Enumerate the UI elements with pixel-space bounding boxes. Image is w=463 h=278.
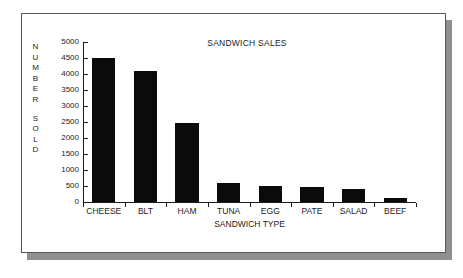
bar [217,183,240,202]
y-axis-tick-label: 4500 [61,54,79,62]
x-axis-category-label: PATE [301,207,322,216]
bar [134,71,157,202]
y-axis-tick [84,186,88,187]
bar [342,189,365,202]
x-axis-category-label: BEEF [384,207,406,216]
x-axis-label: SANDWICH TYPE [83,219,416,229]
y-axis-tick [84,170,88,171]
y-axis-tick-label: 4000 [61,70,79,78]
y-axis-tick-labels: 0500100015002000250030003500400045005000 [46,42,79,202]
y-axis-tick-label: 2000 [61,134,79,142]
x-axis-category-label: TUNA [217,207,240,216]
x-axis-category-label: EGG [261,207,280,216]
y-axis-label-char: U [33,53,39,62]
y-axis-tick-label: 5000 [61,38,79,46]
y-axis-label-char: R [33,95,39,104]
y-axis-label-char: O [32,124,38,133]
plot-area [83,42,416,202]
x-axis-category-label: SALAD [340,207,368,216]
y-axis-tick-label: 500 [66,182,79,190]
x-axis-category-label: BLT [138,207,153,216]
bar [384,198,407,202]
y-axis-label-char: B [33,74,38,83]
y-axis-tick [84,138,88,139]
y-axis-tick-label: 1500 [61,150,79,158]
x-axis-category-label: CHEESE [86,207,121,216]
y-axis-label-char: M [32,63,39,72]
x-axis-category-labels: CHEESEBLTHAMTUNAEGGPATESALADBEEF [83,207,416,219]
bar [175,123,198,202]
y-axis-label: N U M B E R S O L D [29,42,42,156]
y-axis-tick-label: 0 [75,198,79,206]
y-axis-tick [84,90,88,91]
y-axis-tick [84,42,88,43]
y-axis-tick-label: 1000 [61,166,79,174]
y-axis-tick-label: 3500 [61,86,79,94]
bar [300,187,323,202]
y-axis-tick [84,106,88,107]
y-axis-tick [84,74,88,75]
y-axis-tick-label: 3000 [61,102,79,110]
y-axis-tick [84,122,88,123]
y-axis-tick [84,202,88,203]
figure-frame: SANDWICH SALES N U M B E R S O L D 05001… [21,13,446,253]
y-axis-label-char: D [33,145,39,154]
bar-chart: SANDWICH SALES N U M B E R S O L D 05001… [22,14,445,252]
y-axis-label-char: S [33,114,38,123]
y-axis-label-char: E [33,84,38,93]
x-axis-category-label: HAM [178,207,197,216]
y-axis-label-char: L [33,135,37,144]
y-axis-tick [84,154,88,155]
y-axis-label-char: N [33,42,39,51]
bar [259,186,282,202]
x-axis-tick [416,203,417,207]
y-axis-tick-label: 2500 [61,118,79,126]
y-axis-label-spacer [29,106,42,114]
figure-page: SANDWICH SALES N U M B E R S O L D 05001… [0,0,463,278]
y-axis-tick [84,58,88,59]
bar [92,58,115,202]
